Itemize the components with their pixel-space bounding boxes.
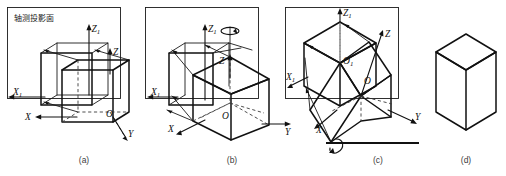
caption-a: (a) — [79, 155, 90, 165]
caption-c: (c) — [373, 155, 383, 165]
axis-y-b — [230, 103, 291, 127]
label-o-b: O — [222, 111, 229, 121]
label-o-a: O — [106, 109, 113, 119]
axis-z1-b — [202, 24, 207, 100]
panel-a: Z1 Z X1 X Y O 轴测投影面 (a) — [8, 8, 136, 166]
label-x1-c: X1 — [285, 72, 295, 83]
label-y-a: Y — [128, 129, 135, 139]
label-z-a: Z — [113, 47, 119, 57]
label-y-b: Y — [285, 127, 292, 137]
caption-d: (d) — [461, 155, 472, 165]
caption-b: (b) — [227, 155, 238, 165]
label-x-c: X — [315, 125, 323, 135]
label-o-c: O — [364, 76, 371, 86]
axis-z-c — [361, 30, 383, 96]
axonometric-projection-figure: Z1 Z X1 X Y O 轴测投影面 (a) — [0, 0, 506, 176]
label-x1-a: X1 — [12, 87, 22, 98]
panel-d: (d) — [436, 34, 496, 165]
front-cube-a — [62, 60, 129, 122]
front-cube-c — [310, 22, 391, 142]
label-z1-c: Z1 — [343, 8, 352, 19]
label-z1-a: Z1 — [92, 24, 101, 35]
projection-plane-c — [286, 8, 399, 99]
projector-rays-c — [305, 24, 369, 142]
panel-c: Z1 Z X1 X Y O1 O (c) — [285, 8, 422, 166]
label-x-a: X — [24, 112, 32, 122]
axis-x-a — [35, 114, 77, 119]
label-z-b: Z — [219, 56, 225, 66]
isometric-cube-d — [436, 34, 496, 130]
label-x-b: X — [167, 124, 175, 134]
axis-z1-c — [337, 8, 342, 22]
label-o1-c: O1 — [343, 56, 353, 67]
label-z-c: Z — [385, 29, 391, 39]
panel-b: Z1 Z X1 X Y O (b) — [146, 8, 293, 166]
label-y-c: Y — [415, 112, 422, 122]
projection-plane-label-a: 轴测投影面 — [14, 13, 54, 23]
label-x1-b: X1 — [150, 87, 160, 98]
rear-cube-b — [169, 43, 252, 105]
label-z1-b: Z1 — [208, 24, 217, 35]
